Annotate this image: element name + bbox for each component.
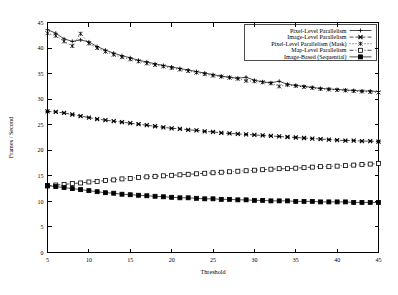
series-marker-3	[112, 178, 116, 182]
series-marker-3	[194, 172, 198, 176]
series-marker-4	[161, 195, 165, 199]
y-tick-label: 45	[38, 20, 44, 26]
series-marker-4	[244, 198, 248, 202]
series-marker-4	[294, 199, 298, 203]
series-marker-4	[236, 198, 240, 202]
series-marker-4	[228, 197, 232, 201]
y-tick-label: 35	[38, 71, 44, 77]
y-tick-label: 5	[41, 224, 44, 230]
legend-label-3: Map-Level Parallelism	[291, 47, 346, 53]
x-tick-label: 30	[251, 257, 257, 263]
series-marker-4	[352, 200, 356, 204]
series-marker-3	[70, 182, 74, 186]
series-marker-4	[87, 189, 91, 193]
x-tick-label: 10	[86, 257, 92, 263]
series-marker-4	[261, 198, 265, 202]
series-marker-3	[79, 181, 83, 185]
series-marker-3	[128, 176, 132, 180]
series-marker-4	[277, 199, 281, 203]
series-marker-3	[302, 166, 306, 170]
series-marker-3	[170, 173, 174, 177]
legend-label-1: Image-Level Parallelism	[287, 34, 346, 40]
series-marker-4	[343, 200, 347, 204]
series-marker-3	[327, 165, 331, 169]
series-marker-3	[352, 163, 356, 167]
series-marker-3	[161, 174, 165, 178]
x-tick-label: 15	[127, 257, 133, 263]
series-marker-3	[178, 173, 182, 177]
series-marker-4	[368, 200, 372, 204]
series-marker-3	[228, 170, 232, 174]
series-marker-4	[145, 194, 149, 198]
series-marker-4	[95, 190, 99, 194]
series-marker-4	[252, 198, 256, 202]
legend-label-0: Pixel-Level Parallelism	[290, 28, 347, 34]
legend-marker-3	[359, 48, 363, 52]
series-marker-3	[244, 169, 248, 173]
series-marker-3	[335, 164, 339, 168]
y-axis-label: Frames / Second	[7, 116, 14, 158]
series-marker-3	[285, 167, 289, 171]
series-marker-4	[120, 192, 124, 196]
legend-marker-4	[359, 55, 363, 59]
series-marker-4	[335, 200, 339, 204]
series-marker-4	[219, 197, 223, 201]
series-marker-4	[170, 195, 174, 199]
series-marker-3	[103, 178, 107, 182]
series-marker-3	[294, 166, 298, 170]
series-marker-3	[211, 171, 215, 175]
series-marker-4	[186, 196, 190, 200]
x-tick-label: 5	[46, 257, 49, 263]
series-marker-3	[203, 171, 207, 175]
series-marker-4	[211, 197, 215, 201]
series-marker-3	[360, 163, 364, 167]
chart-svg: 51015202530354045051015202530354045Thres…	[0, 0, 398, 295]
series-marker-3	[137, 175, 141, 179]
series-marker-4	[310, 199, 314, 203]
x-tick-label: 25	[210, 257, 216, 263]
series-marker-3	[269, 167, 273, 171]
y-tick-label: 25	[38, 122, 44, 128]
series-marker-3	[310, 165, 314, 169]
series-marker-4	[137, 193, 141, 197]
series-marker-3	[145, 175, 149, 179]
series-marker-4	[153, 194, 157, 198]
y-tick-label: 30	[38, 96, 44, 102]
series-marker-3	[277, 167, 281, 171]
series-marker-3	[153, 174, 157, 178]
series-marker-4	[194, 196, 198, 200]
y-tick-label: 0	[41, 250, 44, 256]
series-marker-4	[79, 188, 83, 192]
x-tick-label: 45	[376, 257, 382, 263]
series-marker-4	[269, 199, 273, 203]
legend-label-4: Image-Based (Sequential)	[284, 54, 346, 61]
series-marker-4	[319, 200, 323, 204]
chart-container: 51015202530354045051015202530354045Thres…	[0, 0, 398, 295]
series-marker-4	[62, 186, 66, 190]
series-marker-4	[112, 191, 116, 195]
series-marker-3	[319, 165, 323, 169]
series-line-1	[48, 111, 379, 141]
series-marker-3	[186, 172, 190, 176]
series-marker-3	[95, 179, 99, 183]
x-tick-label: 35	[293, 257, 299, 263]
x-axis-label: Threshold	[200, 268, 226, 275]
series-marker-4	[46, 184, 50, 188]
series-marker-4	[327, 200, 331, 204]
series-marker-4	[203, 197, 207, 201]
series-marker-3	[252, 168, 256, 172]
series-marker-3	[343, 164, 347, 168]
y-tick-label: 40	[38, 45, 44, 51]
series-marker-4	[103, 191, 107, 195]
y-tick-label: 20	[38, 147, 44, 153]
series-marker-3	[236, 169, 240, 173]
series-marker-4	[360, 200, 364, 204]
series-marker-4	[302, 199, 306, 203]
series-marker-4	[128, 193, 132, 197]
series-marker-3	[87, 180, 91, 184]
series-marker-4	[54, 185, 58, 189]
series-marker-4	[285, 199, 289, 203]
series-marker-3	[120, 177, 124, 181]
y-tick-label: 10	[38, 199, 44, 205]
series-marker-4	[70, 187, 74, 191]
